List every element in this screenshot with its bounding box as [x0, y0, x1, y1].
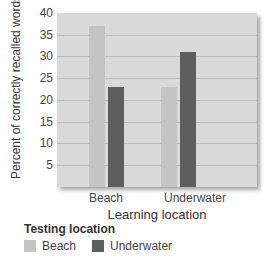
bar-beach-underwater — [108, 87, 124, 187]
bar-underwater-underwater — [180, 52, 196, 187]
gridline-25 — [57, 78, 257, 79]
y-tick: 10 — [33, 137, 53, 149]
x-tick-underwater: Underwater — [155, 191, 235, 205]
x-tick-beach: Beach — [66, 191, 146, 205]
gridline-15 — [57, 122, 257, 123]
bar-underwater-beach — [161, 87, 177, 187]
legend-title: Testing location — [24, 222, 115, 236]
y-tick: 40 — [33, 7, 53, 19]
legend-label-underwater: Underwater — [110, 239, 172, 253]
x-axis-label: Learning location — [57, 207, 257, 222]
gridline-30 — [57, 56, 257, 57]
bar-beach-beach — [89, 26, 105, 187]
legend: Beach Underwater — [24, 239, 188, 253]
y-tick: 30 — [33, 50, 53, 62]
legend-swatch-underwater — [92, 240, 104, 252]
gridline-35 — [57, 35, 257, 36]
legend-item-beach: Beach — [24, 239, 76, 253]
plot-area — [57, 13, 257, 187]
y-tick: 20 — [33, 94, 53, 106]
legend-swatch-beach — [24, 240, 36, 252]
gridline-10 — [57, 143, 257, 144]
gridline-20 — [57, 100, 257, 101]
y-tick: 15 — [33, 116, 53, 128]
gridline-5 — [57, 165, 257, 166]
y-tick: 5 — [33, 159, 53, 171]
y-axis-label: Percent of correctly recalled words — [9, 19, 23, 179]
y-tick: 35 — [33, 29, 53, 41]
legend-label-beach: Beach — [42, 239, 76, 253]
y-tick: 25 — [33, 72, 53, 84]
legend-item-underwater: Underwater — [92, 239, 172, 253]
